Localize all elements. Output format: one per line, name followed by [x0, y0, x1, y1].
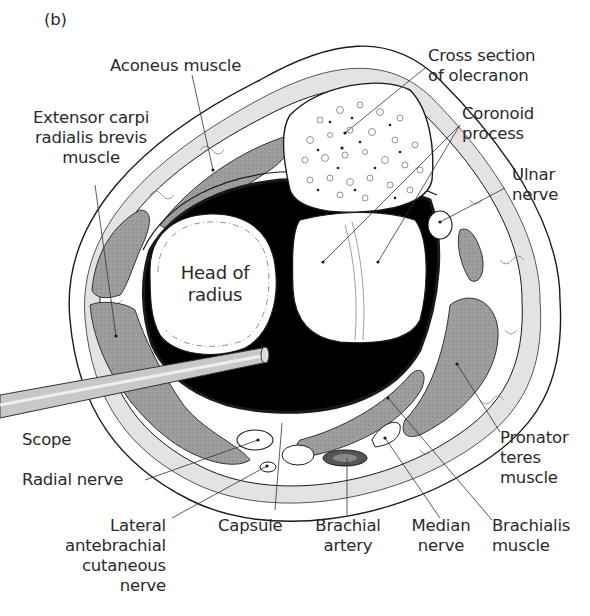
panel-label: (b) [44, 10, 67, 30]
label-brachial-artery: Brachial artery [310, 516, 386, 556]
label-cross-section-olecranon: Cross section of olecranon [428, 46, 535, 86]
label-ulnar-nerve: Ulnar nerve [512, 165, 558, 205]
label-radial-nerve: Radial nerve [22, 470, 123, 490]
label-median-nerve: Median nerve [404, 516, 478, 556]
label-capsule: Capsule [218, 516, 283, 536]
label-aconeus-muscle: Aconeus muscle [110, 56, 241, 76]
label-lateral-antebrachial-cutaneous-nerve: Lateral antebrachial cutaneous nerve [40, 516, 166, 596]
label-head-of-radius: Head of radius [170, 262, 260, 306]
elbow-cross-section-diagram: (b) Aconeus muscle Extensor carpi radial… [0, 0, 590, 616]
label-scope: Scope [22, 430, 71, 450]
coronoid-process-bone [293, 212, 427, 342]
label-coronoid-process: Coronoid process [462, 104, 534, 144]
label-pronator-teres-muscle: Pronator teres muscle [500, 428, 569, 488]
radial-nerve-shape [237, 430, 273, 450]
label-brachialis-muscle: Brachialis muscle [492, 516, 570, 556]
label-extensor-carpi-radialis-brevis: Extensor carpi radialis brevis muscle [26, 108, 156, 168]
ulnar-nerve-shape [428, 211, 452, 239]
